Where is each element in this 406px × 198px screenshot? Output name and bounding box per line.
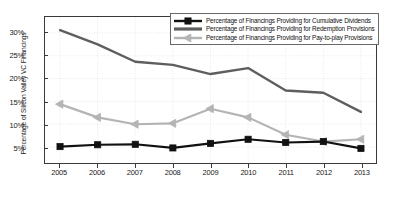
x-tick-label: 2013 xyxy=(354,168,370,177)
x-tick-mark xyxy=(97,164,98,168)
y-tick-mark xyxy=(44,102,48,103)
x-tick-label: 2009 xyxy=(203,168,219,177)
legend-item: Percentage of Financings Providing for R… xyxy=(173,25,375,33)
y-tick-mark xyxy=(44,78,48,79)
legend-item: Percentage of Financings Providing for P… xyxy=(173,34,375,42)
x-tick-label: 2008 xyxy=(165,168,181,177)
chart-legend: Percentage of Financings Providing for C… xyxy=(170,13,379,45)
x-tick-label: 2011 xyxy=(279,168,294,177)
y-tick-mark xyxy=(44,148,48,149)
x-tick-label: 2010 xyxy=(240,168,256,177)
legend-swatch xyxy=(173,17,203,25)
x-tick-mark xyxy=(286,164,287,168)
x-tick-mark xyxy=(362,164,363,168)
y-tick-label: 30% xyxy=(10,28,24,37)
x-tick-label: 2012 xyxy=(316,168,332,177)
y-tick-mark xyxy=(44,125,48,126)
chart-figure: Percentage of Silicon Valley VC Financin… xyxy=(0,0,406,198)
y-tick-label: 25% xyxy=(10,51,24,60)
x-tick-label: 2006 xyxy=(89,168,105,177)
legend-label: Percentage of Financings Providing for P… xyxy=(206,34,372,42)
x-tick-mark xyxy=(59,164,60,168)
legend-item: Percentage of Financings Providing for C… xyxy=(173,17,375,25)
legend-label: Percentage of Financings Providing for R… xyxy=(206,25,375,33)
legend-swatch xyxy=(173,34,203,42)
x-tick-label: 2005 xyxy=(51,168,67,177)
y-tick-label: 10% xyxy=(10,120,24,129)
y-tick-label: 20% xyxy=(10,74,24,83)
x-tick-mark xyxy=(324,164,325,168)
x-tick-mark xyxy=(211,164,212,168)
x-tick-mark xyxy=(135,164,136,168)
y-tick-label: 15% xyxy=(10,97,24,106)
x-tick-label: 2007 xyxy=(127,168,143,177)
y-tick-mark xyxy=(44,55,48,56)
x-tick-mark xyxy=(248,164,249,168)
series-0 xyxy=(57,136,364,151)
x-tick-mark xyxy=(173,164,174,168)
legend-swatch xyxy=(173,25,203,33)
legend-label: Percentage of Financings Providing for C… xyxy=(206,17,371,25)
series-2 xyxy=(55,100,363,146)
y-tick-label: 5% xyxy=(14,143,24,152)
y-tick-mark xyxy=(44,32,48,33)
